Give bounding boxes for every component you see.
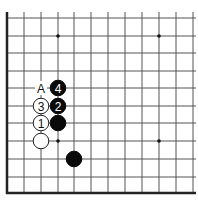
white-stone — [33, 133, 49, 149]
move-number-label: 4 — [55, 82, 62, 96]
star-point — [56, 139, 60, 143]
black-stone-disc — [66, 151, 82, 167]
move-number-label: 2 — [55, 100, 62, 114]
markers: A — [35, 81, 47, 96]
white-stone: 3 — [33, 98, 49, 114]
black-stone: 2 — [50, 98, 66, 114]
black-stone — [50, 115, 66, 131]
point-marker-label: A — [37, 82, 45, 96]
black-stone-disc — [50, 115, 66, 131]
star-point — [56, 34, 60, 38]
star-point — [157, 34, 161, 38]
black-stone: 4 — [50, 80, 66, 96]
move-number-label: 1 — [38, 117, 45, 131]
go-board: 4321 A — [0, 0, 198, 202]
white-stone: 1 — [33, 115, 49, 131]
star-point — [157, 139, 161, 143]
move-number-label: 3 — [38, 100, 45, 114]
white-stone-disc — [33, 133, 49, 149]
black-stone — [66, 151, 82, 167]
